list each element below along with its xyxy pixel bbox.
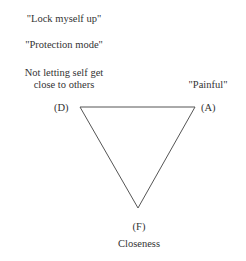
vertex-d-label: (D)	[54, 101, 69, 114]
edge-a-f	[138, 107, 195, 208]
lock-myself-up-label: "Lock myself up"	[27, 12, 101, 25]
edge-f-d	[80, 107, 138, 208]
closeness-label: Closeness	[118, 237, 160, 250]
protection-mode-label: "Protection mode"	[25, 38, 103, 51]
vertex-a-label: (A)	[201, 101, 216, 114]
painful-label: "Painful"	[189, 78, 228, 91]
not-letting-line2-label: close to others	[34, 78, 95, 91]
vertex-f-label: (F)	[133, 220, 146, 233]
